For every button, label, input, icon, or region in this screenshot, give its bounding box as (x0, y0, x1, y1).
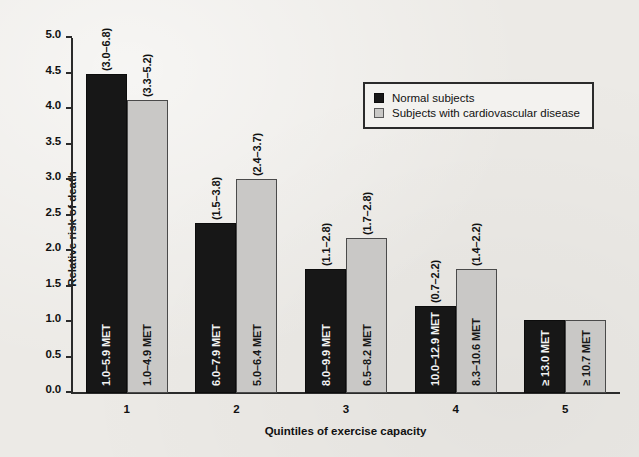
bar[interactable]: ≥ 10.7 MET (565, 320, 606, 393)
legend-swatch-icon-normal-subjects (374, 93, 384, 103)
bar-confidence-interval-label: (1.4–2.2) (470, 223, 482, 266)
bar-group: 6.0–7.9 MET(1.5–3.8)5.0–6.4 MET(2.4–3.7)… (195, 38, 277, 393)
bar-met-label: ≥ 10.7 MET (580, 330, 592, 386)
y-axis-tick: 2.0 (66, 249, 72, 251)
legend-label-cardiovascular-disease: Subjects with cardiovascular disease (392, 107, 580, 119)
y-axis-tick-label: 1.5 (46, 277, 61, 289)
y-axis-tick-label: 1.0 (46, 312, 61, 324)
bar-met-label: ≥ 13.0 MET (539, 330, 551, 386)
y-axis-tick-label: 4.0 (46, 99, 61, 111)
bar-met-label: 1.0–5.9 MET (100, 324, 112, 386)
y-axis-tick: 4.0 (66, 107, 72, 109)
x-axis-tick-label: 2 (195, 403, 277, 415)
x-axis-tick-label: 5 (524, 403, 606, 415)
y-axis-tick-label: 5.0 (46, 28, 61, 40)
x-axis-tick-label: 1 (86, 403, 168, 415)
bar-confidence-interval-label: (3.0–6.8) (100, 27, 112, 70)
bar-confidence-interval-label: (1.7–2.8) (361, 192, 373, 235)
y-axis-tick-label: 0.0 (46, 383, 61, 395)
y-axis-tick: 3.0 (66, 178, 72, 180)
bar-met-label: 10.0–12.9 MET (429, 312, 441, 386)
bar-met-label: 8.3–10.6 MET (470, 318, 482, 386)
bar-group: 1.0–5.9 MET(3.0–6.8)1.0–4.9 MET(3.3–5.2)… (86, 38, 168, 393)
bar[interactable]: 6.0–7.9 MET(1.5–3.8) (195, 223, 236, 393)
y-axis-tick: 4.5 (66, 72, 72, 74)
y-axis-tick: 5.0 (66, 36, 72, 38)
y-axis-tick: 1.0 (66, 320, 72, 322)
bar[interactable]: 1.0–5.9 MET(3.0–6.8) (86, 74, 127, 394)
legend-label-normal-subjects: Normal subjects (392, 92, 474, 104)
x-axis-tick-label: 4 (415, 403, 497, 415)
legend-item-normal-subjects: Normal subjects (374, 90, 580, 105)
y-axis-tick: 0.5 (66, 356, 72, 358)
y-axis-tick: 3.5 (66, 143, 72, 145)
chart-legend: Normal subjects Subjects with cardiovasc… (363, 82, 594, 129)
bar-met-label: 6.5–8.2 MET (361, 324, 373, 386)
bar-met-label: 1.0–4.9 MET (141, 324, 153, 386)
bar[interactable]: 8.3–10.6 MET(1.4–2.2) (456, 269, 497, 393)
legend-swatch-icon-cardiovascular-disease (374, 108, 384, 118)
bar-met-label: 6.0–7.9 MET (210, 324, 222, 386)
bar[interactable]: 6.5–8.2 MET(1.7–2.8) (346, 238, 387, 393)
bar-confidence-interval-label: (2.4–3.7) (251, 133, 263, 176)
y-axis-tick-label: 0.5 (46, 348, 61, 360)
bar-confidence-interval-label: (1.1–2.8) (320, 223, 332, 266)
bar-confidence-interval-label: (1.5–3.8) (210, 176, 222, 219)
y-axis-tick-label: 2.5 (46, 206, 61, 218)
y-axis-tick: 0.0 (66, 391, 72, 393)
bar-confidence-interval-label: (3.3–5.2) (141, 54, 153, 97)
bar[interactable]: 10.0–12.9 MET(0.7–2.2) (415, 306, 456, 393)
y-axis-tick-label: 2.0 (46, 241, 61, 253)
y-axis-tick: 1.5 (66, 285, 72, 287)
bar[interactable]: 1.0–4.9 MET(3.3–5.2) (127, 100, 168, 393)
y-axis-tick-label: 3.5 (46, 135, 61, 147)
y-axis-tick-label: 3.0 (46, 170, 61, 182)
bar-met-label: 8.0–9.9 MET (320, 324, 332, 386)
y-axis-tick-label: 4.5 (46, 64, 61, 76)
x-axis-title: Quintiles of exercise capacity (71, 425, 620, 437)
bar-confidence-interval-label: (0.7–2.2) (429, 260, 441, 303)
y-axis-tick: 2.5 (66, 214, 72, 216)
bar[interactable]: 5.0–6.4 MET(2.4–3.7) (236, 179, 277, 393)
relative-risk-of-death-bar-chart: Relative risk of death 0.00.51.01.52.02.… (0, 0, 639, 457)
bar[interactable]: ≥ 13.0 MET (524, 320, 565, 393)
bar-met-label: 5.0–6.4 MET (251, 324, 263, 386)
x-axis-tick-label: 3 (305, 403, 387, 415)
bar[interactable]: 8.0–9.9 MET(1.1–2.8) (305, 269, 346, 393)
legend-item-cardiovascular-disease: Subjects with cardiovascular disease (374, 105, 580, 120)
